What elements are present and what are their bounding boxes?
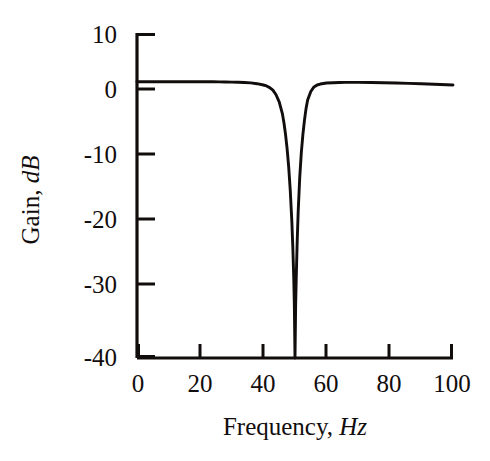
y-axis-title: Gain, dB	[18, 156, 43, 245]
x-tick-label-0: 0	[132, 371, 145, 396]
x-tick-label-20: 20	[188, 371, 213, 396]
y-axis-unit: dB	[17, 156, 44, 184]
notch-filter-frequency-response-chart: 10 0 -10 -20 -30 -40 0 20 40 60 80 100 F…	[0, 0, 490, 461]
x-axis-unit: Hz	[339, 413, 367, 440]
y-tick-label-neg30: -30	[84, 272, 117, 297]
y-tick-label-neg40: -40	[84, 345, 117, 370]
x-tick-label-40: 40	[251, 371, 276, 396]
plot-area	[0, 0, 490, 461]
gain-response-curve	[137, 82, 453, 358]
x-axis-title-text: Frequency,	[223, 413, 333, 440]
x-axis-title: Frequency, Hz	[223, 414, 367, 439]
y-tick-label-neg10: -10	[84, 142, 117, 167]
y-tick-label-0: 0	[105, 77, 118, 102]
y-axis-title-text: Gain,	[17, 190, 44, 245]
x-tick-label-100: 100	[433, 371, 471, 396]
x-tick-label-80: 80	[377, 371, 402, 396]
y-tick-label-10: 10	[92, 22, 117, 47]
x-tick-label-60: 60	[314, 371, 339, 396]
y-tick-label-neg20: -20	[84, 207, 117, 232]
